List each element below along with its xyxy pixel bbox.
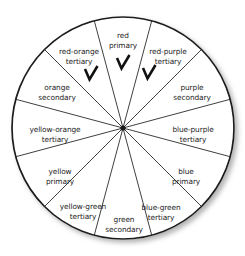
wheel-center-hub: [120, 125, 125, 130]
segment-label-category: tertiary: [42, 135, 69, 144]
segment-label-name: orange: [44, 83, 70, 92]
color-wheel-figure: redprimaryred-purpletertiarypurplesecond…: [0, 0, 245, 256]
color-wheel-svg: redprimaryred-purpletertiarypurplesecond…: [0, 0, 245, 256]
segment-label-category: primary: [109, 41, 138, 50]
segment-label-category: tertiary: [70, 212, 97, 221]
segment-label-category: tertiary: [148, 213, 175, 222]
segment-label-name: purple: [180, 83, 204, 92]
segment-label-name: red-purple: [149, 47, 187, 56]
segment-label-name: blue-green: [142, 203, 181, 212]
segment-label-category: primary: [172, 177, 201, 186]
segment-label-name: green: [114, 215, 135, 224]
segment-label-name: yellow-orange: [29, 125, 81, 134]
wheel-segment-yellow[interactable]: yellowprimary: [46, 167, 75, 186]
segment-label-category: tertiary: [180, 135, 207, 144]
segment-label-category: secondary: [38, 93, 76, 102]
segment-label-category: secondary: [173, 93, 211, 102]
segment-label-name: yellow-green: [60, 202, 107, 211]
segment-label-category: secondary: [105, 225, 143, 234]
segment-label-category: tertiary: [155, 57, 182, 66]
segment-label-name: yellow: [49, 167, 72, 176]
segment-label-name: red: [117, 31, 129, 40]
segment-label-name: red-orange: [59, 47, 99, 56]
segment-label-category: tertiary: [66, 57, 93, 66]
segment-label-name: blue: [178, 167, 194, 176]
segment-label-category: primary: [46, 177, 75, 186]
segment-label-name: blue-purple: [172, 125, 214, 134]
